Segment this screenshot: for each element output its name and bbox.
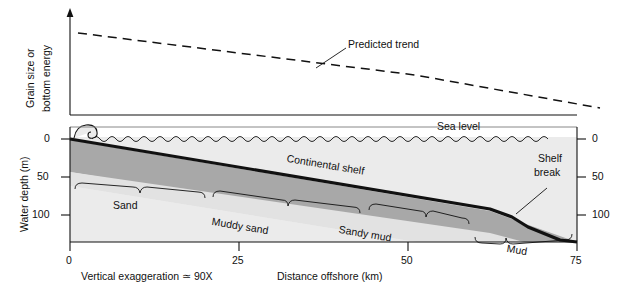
ytick-label-right-50: 50 — [592, 170, 604, 182]
shelf-break-label-line2: break — [534, 166, 560, 178]
sea-level-label: Sea level — [437, 120, 480, 132]
top-panel — [67, 8, 600, 115]
ytick-label-right-100: 100 — [592, 208, 610, 220]
xtick-label-0: 0 — [66, 254, 72, 266]
predicted-trend-line — [78, 33, 600, 108]
ytick-label-left-0: 0 — [44, 132, 50, 144]
shelf-sedimentation-figure — [0, 0, 641, 295]
ytick-label-right-0: 0 — [592, 132, 598, 144]
up-arrow-icon — [67, 8, 74, 17]
ytick-label-left-100: 100 — [32, 208, 50, 220]
xtick-label-75: 75 — [570, 254, 582, 266]
xtick-label-25: 25 — [232, 254, 244, 266]
top-panel-ylabel-line2: bottom energy — [40, 45, 52, 112]
xtick-label-50: 50 — [401, 254, 413, 266]
ytick-label-left-50: 50 — [37, 170, 49, 182]
top-panel-ylabel-line1: Grain size or — [24, 48, 36, 108]
predicted-trend-label: Predicted trend — [348, 38, 419, 50]
water-depth-ylabel: Water depth (m) — [18, 157, 30, 232]
vertical-exaggeration-note: Vertical exaggeration ≃ 90X — [81, 270, 213, 282]
sediment-label-sand: Sand — [113, 199, 138, 211]
shelf-break-label-line1: Shelf — [538, 152, 562, 164]
distance-offshore-xlabel: Distance offshore (km) — [277, 270, 382, 282]
